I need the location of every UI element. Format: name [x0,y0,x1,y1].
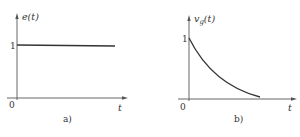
x-axis-arrow-icon [291,97,297,100]
y-tick-1-b: 1 [182,34,188,44]
step-line [17,45,115,46]
figure: e(t) 1 0 t a) vg(t) 1 0 t b) [0,0,300,137]
y-label-a: e(t) [22,11,39,22]
x-label-b: t [288,102,292,113]
y-axis-arrow-icon [187,15,190,21]
origin-label-a: 0 [9,100,15,110]
caption-a: a) [63,114,72,124]
origin-label-b: 0 [180,102,186,112]
panel-b: vg(t) 1 0 t b) [178,13,297,124]
x-axis-arrow-icon [122,96,128,99]
y-label-b: vg(t) [194,13,215,26]
decay-curve [189,38,260,97]
panel-a: e(t) 1 0 t a) [7,11,128,124]
y-axis-arrow-icon [15,13,18,19]
y-tick-1-a: 1 [10,41,16,51]
x-label-a: t [118,102,122,113]
caption-b: b) [234,114,243,124]
